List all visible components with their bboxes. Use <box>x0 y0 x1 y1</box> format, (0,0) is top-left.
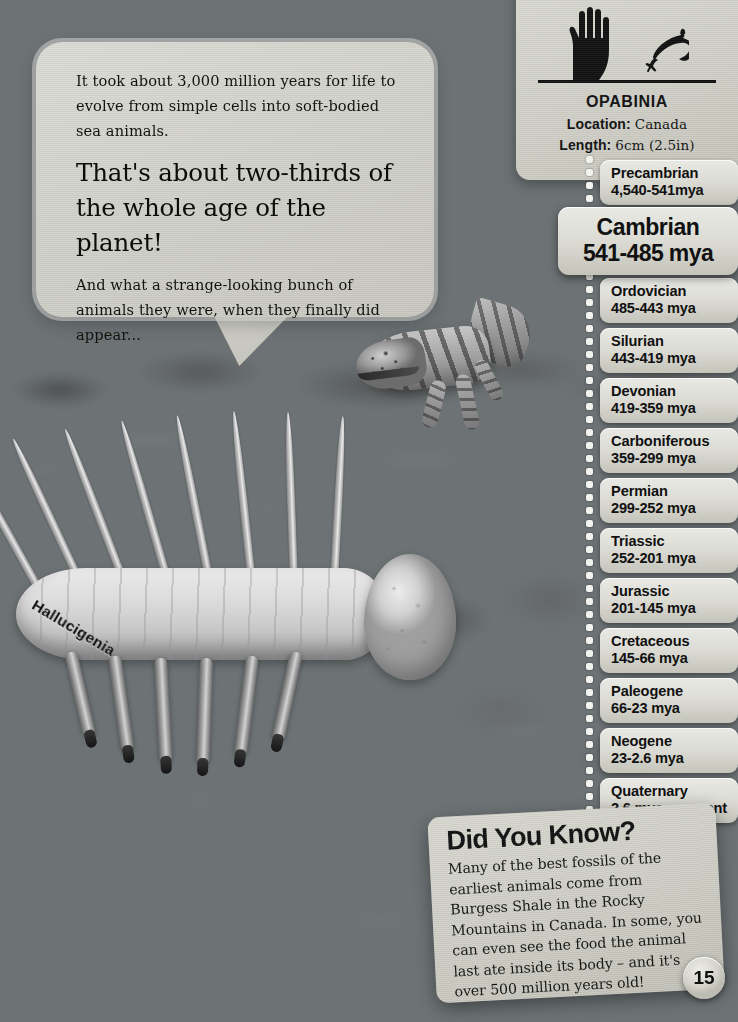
era-name: Cambrian <box>566 214 730 240</box>
timeline-era-triassic[interactable]: Triassic252-201 mya <box>600 528 738 573</box>
perforation-dot <box>586 182 593 189</box>
era-range: 66-23 mya <box>611 700 730 717</box>
perforation-dot <box>586 741 593 748</box>
perforation-dot <box>586 390 593 397</box>
timeline-era-paleogene[interactable]: Paleogene66-23 mya <box>600 678 738 723</box>
perforation-dot <box>586 728 593 735</box>
era-range: 201-145 mya <box>611 600 730 617</box>
species-name: OPABINIA <box>516 93 738 111</box>
era-range: 145-66 mya <box>611 650 730 667</box>
perforation-dot <box>586 663 593 670</box>
perforation-dot <box>586 533 593 540</box>
perforation-dot <box>586 702 593 709</box>
hand-icon <box>565 6 619 80</box>
perforation-dot <box>586 585 593 592</box>
scale-comparison <box>516 0 738 86</box>
timeline-era-precambrian[interactable]: Precambrian4,540-541mya <box>600 160 738 205</box>
geologic-timeline: Precambrian4,540-541myaCambrian541-485 m… <box>600 160 738 828</box>
location-value: Canada <box>635 116 687 132</box>
species-length: Length: 6cm (2.5in) <box>516 137 738 153</box>
perforation-dot <box>586 637 593 644</box>
perforation-dot <box>586 325 593 332</box>
opabinia-icon <box>643 24 689 76</box>
perforation-dot <box>586 442 593 449</box>
perforation-dot <box>586 364 593 371</box>
timeline-era-cretaceous[interactable]: Cretaceous145-66 mya <box>600 628 738 673</box>
perforation-dot <box>586 676 593 683</box>
era-range: 485-443 mya <box>611 300 730 317</box>
era-name: Ordovician <box>611 283 730 300</box>
timeline-era-carboniferous[interactable]: Carboniferous359-299 mya <box>600 428 738 473</box>
perforation-dot <box>586 507 593 514</box>
era-range: 541-485 mya <box>566 240 730 266</box>
era-range: 4,540-541mya <box>611 182 730 199</box>
perforation-dot <box>586 572 593 579</box>
bubble-paragraph-1: It took about 3,000 million years for li… <box>76 68 406 143</box>
perforation-dot <box>586 351 593 358</box>
species-info-card: OPABINIA Location: Canada Length: 6cm (2… <box>516 0 738 180</box>
era-range: 443-419 mya <box>611 350 730 367</box>
page-number-badge: 15 <box>683 957 725 999</box>
species-meta: OPABINIA Location: Canada Length: 6cm (2… <box>516 86 738 153</box>
perforation-dot <box>586 455 593 462</box>
species-location: Location: Canada <box>516 116 738 132</box>
era-range: 252-201 mya <box>611 550 730 567</box>
perforation-dot <box>586 468 593 475</box>
perforation-dot <box>586 780 593 787</box>
hallucigenia-head <box>364 554 456 680</box>
speech-bubble: It took about 3,000 million years for li… <box>36 42 434 317</box>
timeline-era-permian[interactable]: Permian299-252 mya <box>600 478 738 523</box>
era-name: Devonian <box>611 383 730 400</box>
era-range: 419-359 mya <box>611 400 730 417</box>
bubble-paragraph-2: And what a strange-looking bunch of anim… <box>76 272 406 347</box>
did-you-know-body: Many of the best fossils of the earliest… <box>448 845 709 1002</box>
page-root: Hallucigenia It took about 3,000 million… <box>0 0 738 1022</box>
did-you-know-box: Did You Know? Many of the best fossils o… <box>427 803 724 1004</box>
perforation-dot <box>586 429 593 436</box>
era-name: Paleogene <box>611 683 730 700</box>
perforation-dot <box>586 767 593 774</box>
era-range: 299-252 mya <box>611 500 730 517</box>
timeline-era-jurassic[interactable]: Jurassic201-145 mya <box>600 578 738 623</box>
perforation-dot <box>586 689 593 696</box>
perforation-dot <box>586 377 593 384</box>
era-name: Triassic <box>611 533 730 550</box>
perforation-dot <box>586 546 593 553</box>
era-name: Precambrian <box>611 165 730 182</box>
era-name: Cretaceous <box>611 633 730 650</box>
speech-bubble-text: It took about 3,000 million years for li… <box>76 68 406 347</box>
perforation-dot <box>586 494 593 501</box>
era-name: Jurassic <box>611 583 730 600</box>
perforation-dot <box>586 338 593 345</box>
perforation-dot <box>586 195 593 202</box>
era-name: Quaternary <box>611 783 730 800</box>
perforation-dot <box>586 286 593 293</box>
era-name: Permian <box>611 483 730 500</box>
perforation-dot <box>586 754 593 761</box>
timeline-era-ordovician[interactable]: Ordovician485-443 mya <box>600 278 738 323</box>
perforation-dot <box>586 598 593 605</box>
perforation-dot <box>586 312 593 319</box>
timeline-era-silurian[interactable]: Silurian443-419 mya <box>600 328 738 373</box>
perforation-dot <box>586 416 593 423</box>
era-name: Silurian <box>611 333 730 350</box>
era-name: Neogene <box>611 733 730 750</box>
perforation-dot <box>586 403 593 410</box>
perforation-dot <box>586 559 593 566</box>
era-name: Carboniferous <box>611 433 730 450</box>
scale-baseline <box>538 80 716 83</box>
era-range: 359-299 mya <box>611 450 730 467</box>
era-range: 23-2.6 mya <box>611 750 730 767</box>
length-label: Length: <box>559 137 611 153</box>
perforation-dot <box>586 299 593 306</box>
timeline-era-neogene[interactable]: Neogene23-2.6 mya <box>600 728 738 773</box>
timeline-era-cambrian[interactable]: Cambrian541-485 mya <box>558 207 738 275</box>
length-value: 6cm (2.5in) <box>615 137 694 153</box>
timeline-era-devonian[interactable]: Devonian419-359 mya <box>600 378 738 423</box>
location-label: Location: <box>567 116 631 132</box>
perforation-dot <box>586 624 593 631</box>
perforation-dot <box>586 156 593 163</box>
perforation-dot <box>586 650 593 657</box>
perforation-dot <box>586 520 593 527</box>
hallucigenia-creature <box>0 420 410 890</box>
